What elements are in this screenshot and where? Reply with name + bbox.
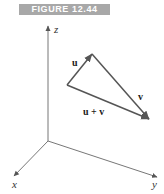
y-axis-label: y [151,178,157,190]
z-axis-label: z [53,23,59,35]
vector-triangle: u v u + v [67,54,149,119]
vector-u [67,54,92,85]
vector-u-plus-v [67,85,149,119]
vector-v-label: v [138,91,143,102]
vector-u-label: u [72,57,78,68]
x-axis-label: x [11,178,17,190]
y-axis [48,141,157,177]
x-axis [14,141,48,176]
vector-addition-diagram: z x y u v u + v [0,0,164,194]
vector-u-plus-v-label: u + v [83,106,104,117]
